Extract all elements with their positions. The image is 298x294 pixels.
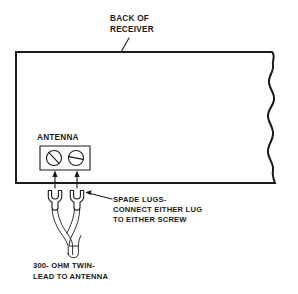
screw-left <box>47 151 62 166</box>
lug-right <box>70 191 83 211</box>
antenna-terminal-label: ANTENNA <box>37 133 79 142</box>
lug-right-body <box>70 191 83 211</box>
lug-left <box>48 191 61 211</box>
arrow-right-lug-to-screw <box>74 171 79 189</box>
twin-lead-left-outer <box>52 210 68 255</box>
twin-lead-right-inner <box>67 210 74 233</box>
antenna-connection-diagram: BACK OF RECEIVER ANTENNA <box>0 0 298 294</box>
arrow-left-lug-to-screw <box>52 171 57 189</box>
twin-lead-cable <box>52 210 81 258</box>
back-of-receiver-callout: BACK OF RECEIVER <box>110 14 154 52</box>
spade-lugs-callout: SPADE LUGS- CONNECT EITHER LUG TO EITHER… <box>85 190 202 224</box>
back-of-receiver-leader-line <box>121 38 129 52</box>
back-of-receiver-label-line1: BACK OF <box>110 14 149 23</box>
diagram-canvas: BACK OF RECEIVER ANTENNA <box>0 0 298 294</box>
twin-lead-end-curl <box>68 246 78 258</box>
spade-lugs-arrowhead <box>85 190 91 195</box>
back-of-receiver-label-line2: RECEIVER <box>110 25 154 34</box>
spade-lugs-label-line2: CONNECT EITHER LUG <box>113 205 202 214</box>
twin-lead-callout: 300- OHM TWIN- LEAD TO ANTENNA <box>33 261 108 281</box>
terminal-strip <box>40 146 90 170</box>
screw-right <box>69 151 84 166</box>
lug-left-body <box>48 191 61 211</box>
spade-lugs-leader-line <box>88 193 112 199</box>
twin-lead-label-line2: LEAD TO ANTENNA <box>33 272 108 281</box>
twin-lead-label-line1: 300- OHM TWIN- <box>33 261 95 270</box>
spade-lugs-label-line1: SPADE LUGS- <box>113 195 167 204</box>
spade-lugs-label-line3: TO EITHER SCREW <box>113 215 187 224</box>
lug-to-screw-arrows <box>52 171 79 189</box>
